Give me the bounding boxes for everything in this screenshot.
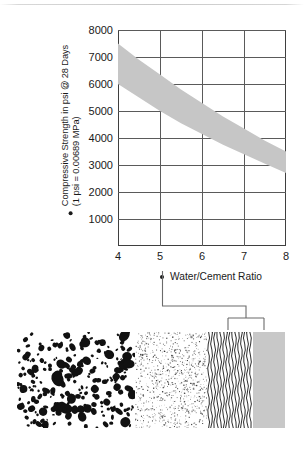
y-axis-tick-label: 4000 xyxy=(89,132,113,144)
y-axis-tick-label: 2000 xyxy=(89,186,113,198)
y-axis-label-line1: Compressive Strength in psi @ 28 Days xyxy=(60,44,71,205)
x-axis-tick-label: 6 xyxy=(199,250,205,262)
figure-page: Compressive Strength in psi @ 28 Days (1… xyxy=(0,0,304,450)
strength-band xyxy=(118,30,286,246)
y-axis-title: Compressive Strength in psi @ 28 Days (1… xyxy=(56,22,86,237)
zone-fine-aggregate xyxy=(135,332,207,428)
y-axis-tick-label: 6000 xyxy=(89,78,113,90)
y-axis-tick-label: 1000 xyxy=(89,213,113,225)
y-axis-bullet-icon xyxy=(69,211,73,215)
y-axis-tick-label: 5000 xyxy=(89,105,113,117)
x-axis-tick-label: 7 xyxy=(241,250,247,262)
y-axis-label-line2: (1 psi = 0.00689 MPa) xyxy=(71,44,82,205)
concrete-ingredients-panel xyxy=(17,332,285,428)
y-axis-tick-label: 7000 xyxy=(89,51,113,63)
x-axis-tick-label: 8 xyxy=(283,250,289,262)
zone-water xyxy=(207,332,253,428)
y-axis-tick-label: 3000 xyxy=(89,159,113,171)
x-axis-tick-label: 4 xyxy=(115,250,121,262)
connector-bracket xyxy=(0,262,304,340)
x-axis-tick-label: 5 xyxy=(157,250,163,262)
zone-cement xyxy=(253,332,285,428)
plot-area: 10002000300040005000600070008000 45678 xyxy=(118,30,286,246)
compressive-strength-chart: Compressive Strength in psi @ 28 Days (1… xyxy=(0,0,304,300)
zone-coarse-aggregate xyxy=(17,332,135,428)
y-axis-tick-label: 8000 xyxy=(89,24,113,36)
